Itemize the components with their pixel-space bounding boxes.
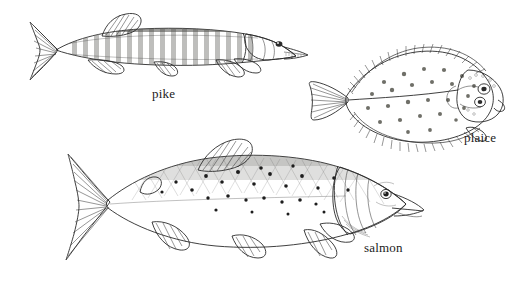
salmon-eye: [383, 192, 388, 197]
salmon-body: [106, 154, 416, 247]
caption-pike: pike: [152, 86, 175, 102]
pike-eye: [276, 41, 283, 47]
plaice-head: [447, 70, 505, 122]
salmon-caudal-fin: [66, 154, 110, 260]
salmon-anal-fin: [152, 222, 189, 250]
salmon-pectoral-fin: [304, 230, 337, 259]
figure-pike: [28, 12, 310, 92]
plaice-body: [346, 51, 494, 142]
plaice-eye-upper: [481, 87, 486, 92]
plaice-eye-lower: [478, 100, 483, 104]
pike-body: [56, 22, 301, 72]
fish-illustration-plate: pike: [0, 0, 532, 282]
pike-caudal-fin: [30, 22, 58, 80]
salmon-pelvic-fin: [232, 235, 266, 258]
caption-salmon: salmon: [364, 240, 403, 256]
plaice-spots: [366, 67, 476, 134]
caption-plaice: plaice: [464, 130, 496, 146]
plaice-caudal-fin: [309, 82, 348, 120]
